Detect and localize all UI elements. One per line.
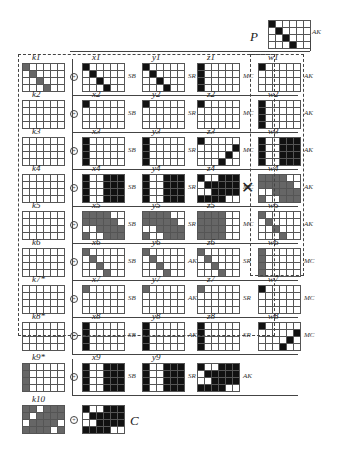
state-cell	[83, 385, 90, 392]
state-cell	[90, 406, 97, 413]
state-cell	[143, 385, 150, 392]
state-cell	[90, 344, 97, 351]
state-cell	[104, 385, 111, 392]
state-cell	[111, 364, 118, 371]
state-cell	[97, 420, 104, 427]
state-cell	[23, 385, 30, 392]
state-cell	[283, 21, 290, 28]
state-cell	[37, 364, 44, 371]
state-cell	[304, 28, 311, 35]
state-cell	[104, 413, 111, 420]
state-cell	[51, 344, 58, 351]
state-cell	[58, 378, 65, 385]
state-cell	[226, 378, 233, 385]
state-cell	[37, 420, 44, 427]
plaintext-label: P	[250, 32, 258, 41]
state-cell	[283, 35, 290, 42]
op-label: MC	[304, 331, 315, 339]
state-cell	[97, 427, 104, 434]
state-cell	[157, 344, 164, 351]
state-cell	[171, 344, 178, 351]
state-cell	[276, 21, 283, 28]
state-cell	[294, 293, 301, 300]
state-cell	[111, 378, 118, 385]
state-cell	[171, 364, 178, 371]
ciphertext-grid	[82, 405, 125, 434]
state-cell	[276, 35, 283, 42]
state-cell	[269, 28, 276, 35]
state-cell	[51, 378, 58, 385]
state-cell	[37, 427, 44, 434]
state-cell	[297, 42, 304, 49]
state-cell	[280, 330, 287, 337]
state-cell	[226, 385, 233, 392]
state-cell	[297, 35, 304, 42]
state-cell	[164, 364, 171, 371]
state-cell	[118, 413, 125, 420]
state-cell	[178, 378, 185, 385]
connector-line	[72, 359, 73, 395]
state-cell	[23, 344, 30, 351]
state-cell	[150, 385, 157, 392]
state-cell	[58, 337, 65, 344]
state-cell	[104, 420, 111, 427]
state-cell	[157, 385, 164, 392]
ak-label: AK	[312, 28, 321, 36]
xor-icon: +	[70, 416, 78, 424]
state-cell	[30, 385, 37, 392]
state-cell	[58, 385, 65, 392]
connector-line	[72, 395, 298, 396]
state-cell	[90, 364, 97, 371]
connector-line	[310, 37, 311, 51]
state-cell	[58, 371, 65, 378]
state-cell	[83, 364, 90, 371]
state-cell	[150, 371, 157, 378]
state-cell	[58, 364, 65, 371]
state-cell	[23, 378, 30, 385]
state-cell	[178, 364, 185, 371]
ciphertext-label: C	[130, 416, 139, 425]
state-cell	[212, 378, 219, 385]
state-cell	[23, 364, 30, 371]
state-cell	[97, 337, 104, 344]
state-cell	[30, 364, 37, 371]
state-cell	[294, 330, 301, 337]
state-cell	[90, 371, 97, 378]
connector-line	[72, 354, 298, 355]
op-label: MC	[304, 257, 315, 265]
state-cell	[178, 337, 185, 344]
state-cell	[97, 413, 104, 420]
state-cell	[233, 371, 240, 378]
state-cell	[157, 337, 164, 344]
state-cell	[51, 337, 58, 344]
state-cell	[198, 385, 205, 392]
state-cell	[97, 344, 104, 351]
state-cell	[58, 427, 65, 434]
state-cell	[273, 337, 280, 344]
state-cell	[280, 293, 287, 300]
state-cell	[171, 385, 178, 392]
state-cell	[294, 300, 301, 307]
state-cell	[111, 371, 118, 378]
state-cell	[143, 344, 150, 351]
state-cell	[23, 406, 30, 413]
state-cell	[212, 337, 219, 344]
state-cell	[280, 323, 287, 330]
state-cell	[111, 406, 118, 413]
state-cell	[51, 427, 58, 434]
state-cell	[51, 406, 58, 413]
state-cell	[90, 337, 97, 344]
state-cell	[83, 378, 90, 385]
state-cell	[58, 420, 65, 427]
state-cell	[273, 344, 280, 351]
state-cell	[171, 337, 178, 344]
state-cell	[233, 337, 240, 344]
state-cell	[118, 337, 125, 344]
round-key-grid	[22, 405, 65, 434]
state-cell	[280, 337, 287, 344]
state-cell	[287, 300, 294, 307]
state-cell	[171, 371, 178, 378]
state-cell	[118, 385, 125, 392]
state-cell	[287, 323, 294, 330]
dashed-region-2	[250, 54, 304, 276]
